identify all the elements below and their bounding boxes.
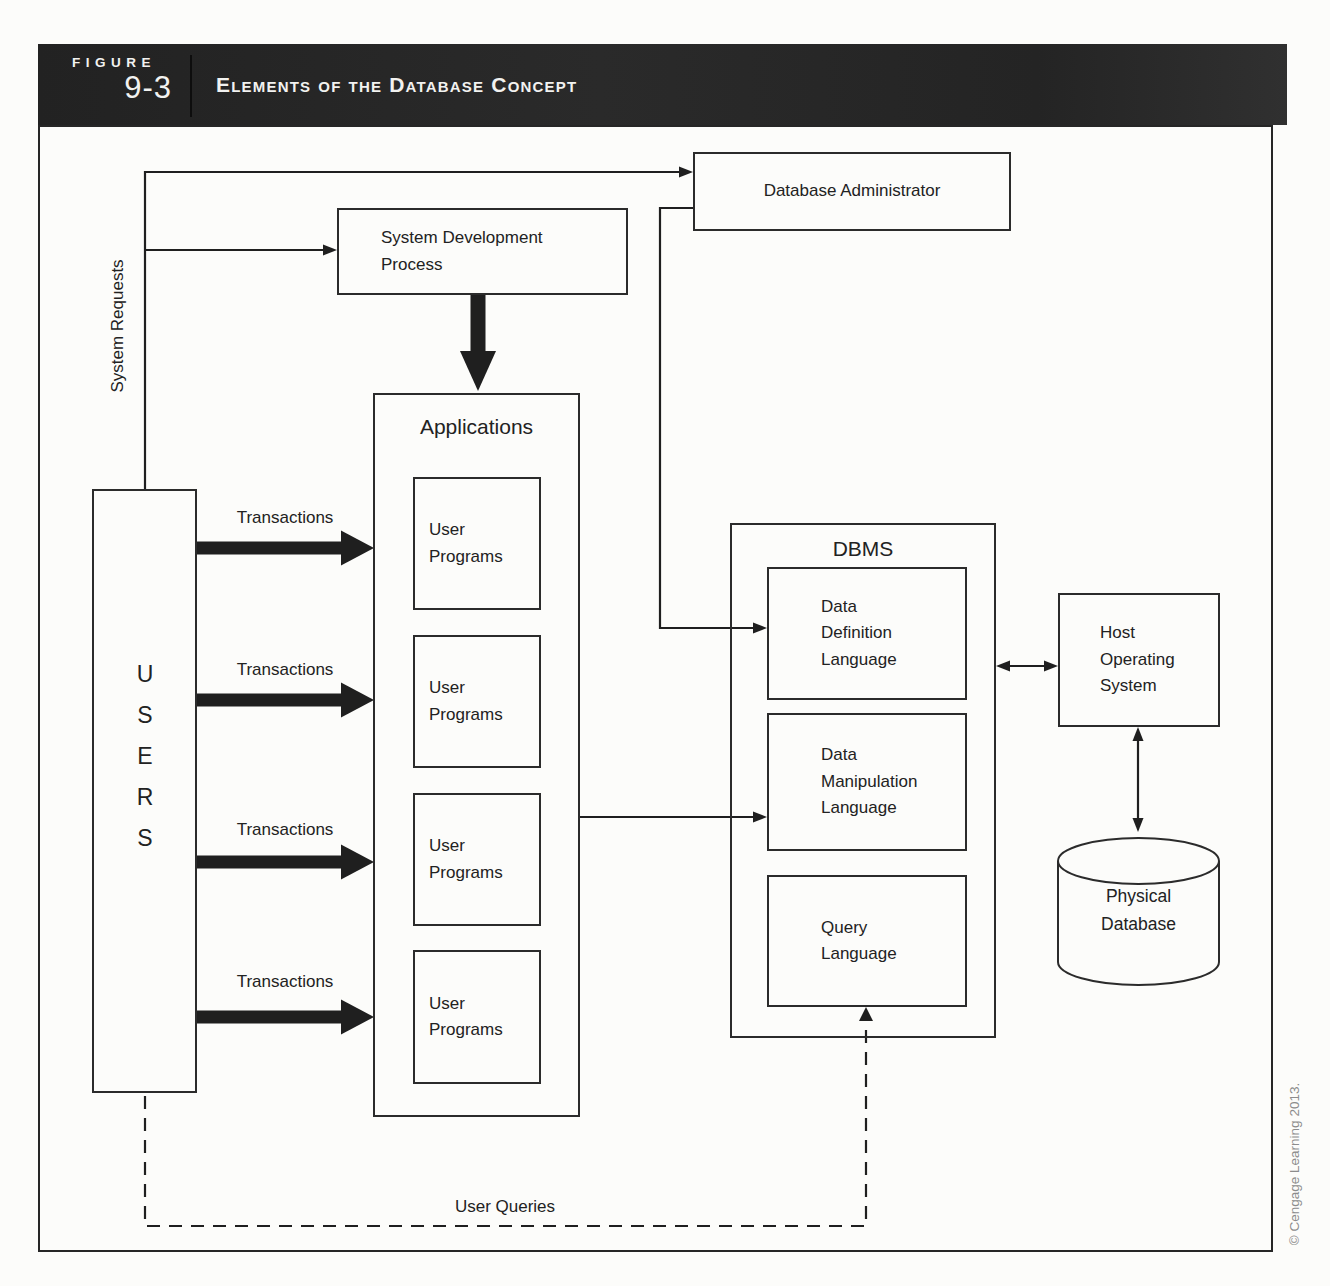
node-user-programs-3: User Programs (413, 793, 541, 926)
arrowhead-into-dba (679, 167, 693, 178)
header-separator-line (190, 55, 192, 117)
scanned-textbook-figure-page: { "figure": { "eyebrow": "FIGURE", "numb… (0, 0, 1330, 1286)
cylinder-top (1058, 838, 1219, 884)
physical-database-label: Physical Database (1058, 882, 1219, 938)
dbms-label: DBMS (732, 537, 994, 561)
transactions-arrow-3-head (341, 845, 374, 880)
figure-eyebrow: FIGURE (72, 55, 156, 70)
system-development-process-label: System Development Process (381, 225, 543, 278)
transactions-arrow-2-stem (197, 694, 344, 707)
thick-arrow-sdp-stem (471, 295, 486, 353)
transactions-label-4: Transactions (237, 972, 334, 992)
figure-title: Elements of the Database Concept (216, 44, 577, 125)
node-query-language: Query Language (767, 875, 967, 1007)
node-host-operating-system: Host Operating System (1058, 593, 1220, 727)
transactions-arrow-1-stem (197, 542, 344, 555)
transactions-label-1: Transactions (237, 508, 334, 528)
figure-number: 9-3 (72, 70, 172, 106)
transactions-arrow-4-head (341, 1000, 374, 1035)
node-database-administrator: Database Administrator (693, 152, 1011, 231)
user-queries-label: User Queries (455, 1197, 555, 1217)
transactions-arrow-4-stem (197, 1011, 344, 1024)
data-manipulation-language-label: Data Manipulation Language (821, 742, 917, 821)
arrowhead-into-sdp (323, 245, 337, 256)
transactions-label-2: Transactions (237, 660, 334, 680)
copyright-text: © Cengage Learning 2013. (1287, 1083, 1302, 1245)
node-user-programs-2: User Programs (413, 635, 541, 768)
system-requests-label: System Requests (108, 259, 128, 392)
users-label: USERS (131, 661, 158, 866)
transactions-arrow-3-stem (197, 856, 344, 869)
database-administrator-label: Database Administrator (764, 178, 941, 204)
node-data-definition-language: Data Definition Language (767, 567, 967, 700)
user-programs-label: User Programs (429, 517, 503, 570)
user-programs-label: User Programs (429, 833, 503, 886)
transactions-arrow-1-head (341, 531, 374, 566)
figure-header-bar: FIGURE 9-3 Elements of the Database Conc… (38, 44, 1287, 125)
arrowhead-physical-db-down (1133, 818, 1144, 832)
node-data-manipulation-language: Data Manipulation Language (767, 713, 967, 851)
data-definition-language-label: Data Definition Language (821, 594, 897, 673)
arrowhead-dbms-left (996, 661, 1010, 672)
host-operating-system-label: Host Operating System (1100, 620, 1175, 699)
user-programs-label: User Programs (429, 991, 503, 1044)
node-users: USERS (92, 489, 197, 1093)
applications-label: Applications (375, 415, 578, 439)
query-language-label: Query Language (821, 915, 897, 968)
transactions-label-3: Transactions (237, 820, 334, 840)
node-system-development-process: System Development Process (337, 208, 628, 295)
transactions-arrow-2-head (341, 683, 374, 718)
node-user-programs-1: User Programs (413, 477, 541, 610)
arrowhead-hos-right (1044, 661, 1058, 672)
arrowhead-hos-up (1133, 727, 1144, 741)
node-user-programs-4: User Programs (413, 950, 541, 1084)
user-programs-label: User Programs (429, 675, 503, 728)
thick-arrow-sdp-head (460, 351, 496, 391)
